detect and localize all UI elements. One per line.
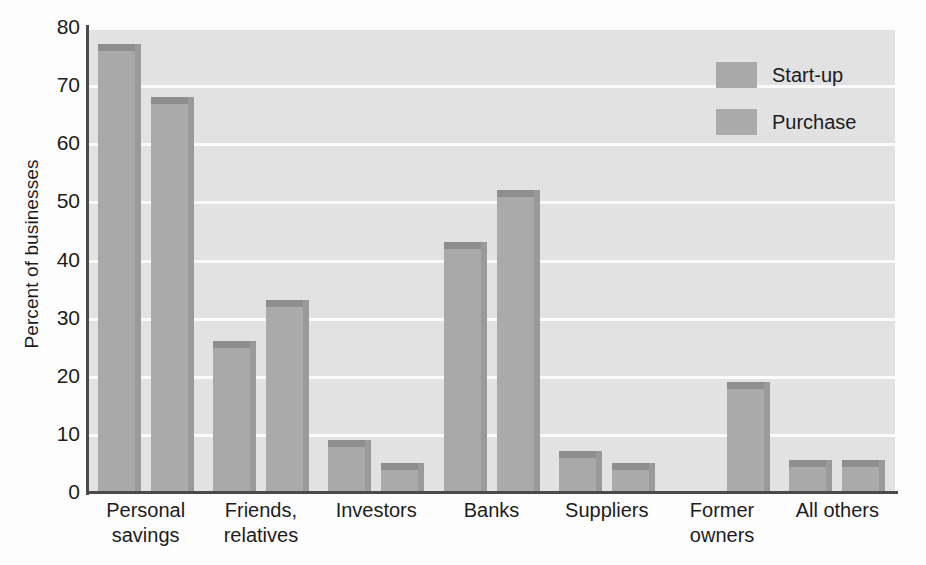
- x-axis-label-line: Personal: [88, 498, 203, 523]
- bar: [328, 440, 371, 492]
- bar-side-face: [365, 440, 371, 492]
- gridline: [88, 201, 895, 204]
- x-axis-label-line: Former: [664, 498, 779, 523]
- x-axis-label-line: savings: [88, 523, 203, 548]
- x-axis-label-line: Investors: [319, 498, 434, 523]
- y-tick-label: 80: [30, 15, 80, 39]
- gridline: [88, 27, 895, 30]
- x-axis-line: [86, 491, 898, 494]
- bar-side-face: [534, 190, 540, 492]
- bar-side-face: [481, 242, 487, 492]
- x-axis-label-line: owners: [664, 523, 779, 548]
- legend-label-start-up: Start-up: [772, 64, 843, 87]
- bar-side-face: [649, 463, 655, 492]
- bar-side-face: [764, 382, 770, 492]
- bar: [381, 463, 424, 492]
- x-axis-label: All others: [780, 498, 895, 523]
- gridline: [88, 434, 895, 437]
- y-tick-label: 70: [30, 73, 80, 97]
- bar-side-face: [135, 44, 141, 492]
- legend-item-start-up: Start-up: [716, 62, 916, 88]
- y-tick-label: 0: [30, 480, 80, 504]
- bar-side-face: [826, 460, 832, 492]
- bar: [727, 382, 770, 492]
- bar-side-face: [596, 451, 602, 492]
- legend-item-purchase: Purchase: [716, 109, 916, 135]
- bar: [151, 97, 194, 492]
- bar: [842, 460, 885, 492]
- gridline: [88, 318, 895, 321]
- bar: [789, 460, 832, 492]
- y-tick-label: 60: [30, 131, 80, 155]
- bar: [612, 463, 655, 492]
- bar-side-face: [418, 463, 424, 492]
- x-axis-label: Friends,relatives: [203, 498, 318, 548]
- bar: [444, 242, 487, 492]
- bar-chart: Percent of businesses 01020304050607080 …: [0, 0, 926, 565]
- y-axis-line: [86, 25, 89, 495]
- y-tick-label: 40: [30, 248, 80, 272]
- legend: Start-up Purchase: [716, 62, 916, 156]
- bar-side-face: [879, 460, 885, 492]
- bar: [559, 451, 602, 492]
- y-tick-label: 50: [30, 189, 80, 213]
- legend-swatch-purchase: [716, 109, 757, 135]
- gridline: [88, 376, 895, 379]
- bar-side-face: [303, 300, 309, 492]
- x-axis-label: Banks: [434, 498, 549, 523]
- x-axis-label: Investors: [319, 498, 434, 523]
- legend-swatch-start-up: [716, 62, 757, 88]
- x-axis-label-line: All others: [780, 498, 895, 523]
- y-tick-label: 10: [30, 422, 80, 446]
- x-axis-label-line: Friends,: [203, 498, 318, 523]
- bar: [213, 341, 256, 492]
- bar: [497, 190, 540, 492]
- bar: [266, 300, 309, 492]
- bar: [98, 44, 141, 492]
- x-axis-label: Formerowners: [664, 498, 779, 548]
- x-axis-label-line: Suppliers: [549, 498, 664, 523]
- x-axis-label: Personalsavings: [88, 498, 203, 548]
- x-axis-label-line: Banks: [434, 498, 549, 523]
- legend-label-purchase: Purchase: [772, 111, 857, 134]
- x-axis-category-labels: PersonalsavingsFriends,relativesInvestor…: [88, 498, 895, 562]
- x-axis-label-line: relatives: [203, 523, 318, 548]
- y-tick-label: 30: [30, 306, 80, 330]
- y-tick-label: 20: [30, 364, 80, 388]
- y-axis-tick-labels: 01020304050607080: [30, 0, 80, 565]
- bar-side-face: [188, 97, 194, 492]
- gridline: [88, 260, 895, 263]
- bar-side-face: [250, 341, 256, 492]
- x-axis-label: Suppliers: [549, 498, 664, 523]
